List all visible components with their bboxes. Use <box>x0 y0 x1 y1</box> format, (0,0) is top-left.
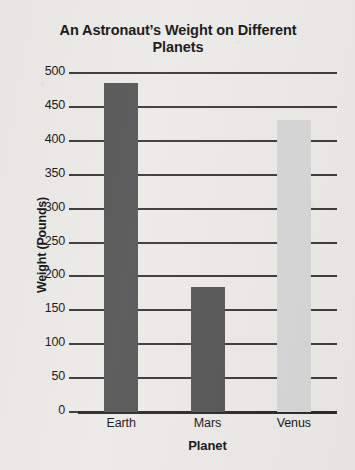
y-axis-tick-mark <box>69 106 78 108</box>
x-axis-label-venus: Venus <box>277 416 311 430</box>
bar-venus <box>277 120 311 412</box>
y-axis-tick-mark <box>69 275 78 277</box>
y-axis-tick-mark <box>69 174 78 176</box>
y-axis-tick-label: 450 <box>45 98 65 112</box>
chart-title: An Astronaut’s Weight on Different Plane… <box>28 22 328 56</box>
bar-chart-figure: An Astronaut’s Weight on Different Plane… <box>0 0 355 470</box>
y-axis-tick-label: 50 <box>51 369 65 383</box>
bar-earth <box>104 83 138 412</box>
bars-layer <box>78 73 337 412</box>
x-axis-title: Planet <box>78 438 337 453</box>
y-axis-tick-mark <box>69 72 78 74</box>
y-axis-tick-label: 250 <box>45 234 65 248</box>
y-axis-tick-mark <box>69 411 78 413</box>
y-axis-tick-label: 0 <box>58 403 65 417</box>
plot-area: 050100150200250300350400450500 <box>78 73 337 412</box>
y-axis-tick-label: 350 <box>45 166 65 180</box>
y-axis-tick-mark <box>69 309 78 311</box>
x-axis-label-mars: Mars <box>194 416 221 430</box>
y-axis-tick-label: 150 <box>45 301 65 315</box>
chart-title-line-1: An Astronaut’s Weight on Different <box>28 22 328 39</box>
y-axis-tick-label: 100 <box>45 335 65 349</box>
x-axis-label-earth: Earth <box>106 416 135 430</box>
y-axis-tick-mark <box>69 140 78 142</box>
y-axis-tick-label: 300 <box>45 200 65 214</box>
y-axis-tick-mark <box>69 208 78 210</box>
y-axis-tick-mark <box>69 242 78 244</box>
chart-title-line-2: Planets <box>28 39 328 56</box>
y-axis-tick-mark <box>69 377 78 379</box>
bar-mars <box>191 287 225 412</box>
y-axis-tick-mark <box>69 343 78 345</box>
y-axis-tick-label: 400 <box>45 132 65 146</box>
x-axis-tick-labels: EarthMarsVenus <box>78 416 337 436</box>
y-axis-tick-label: 500 <box>45 64 65 78</box>
y-axis-tick-label: 200 <box>45 267 65 281</box>
